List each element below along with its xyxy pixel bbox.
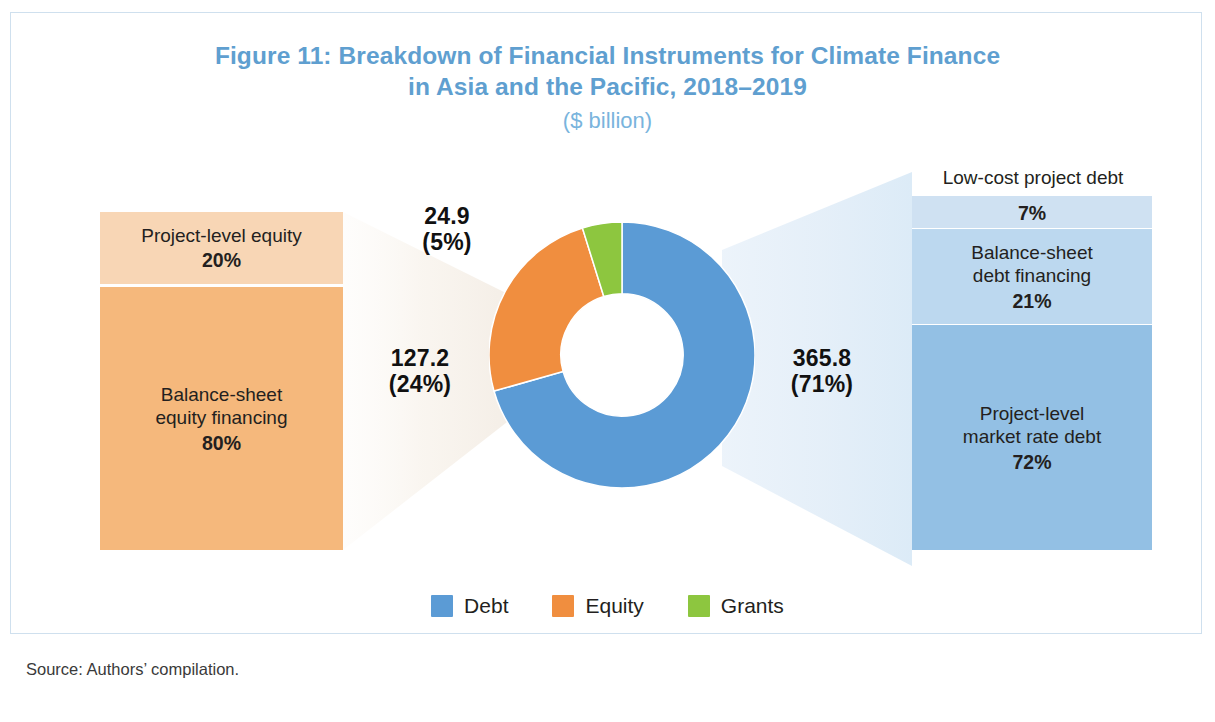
legend-swatch-debt	[431, 595, 453, 617]
donut-chart	[489, 222, 755, 488]
callout-debt-value: 365.8	[757, 345, 887, 371]
source-note: Source: Authors’ compilation.	[26, 660, 239, 679]
equity-segment-balance-sheet-value: 80%	[202, 431, 241, 455]
callout-equity-value: 127.2	[360, 345, 480, 371]
callout-equity-share: (24%)	[360, 371, 480, 397]
equity-segment-balance-sheet: Balance-sheetequity financing 80%	[100, 287, 343, 550]
equity-segment-project-level-value: 20%	[202, 248, 241, 272]
callout-debt-share: (71%)	[757, 371, 887, 397]
equity-breakdown-panel: Project-level equity 20% Balance-sheeteq…	[100, 212, 343, 550]
debt-segment-market-rate-value: 72%	[1012, 450, 1051, 474]
debt-segment-balance-sheet-label: Balance-sheetdebt financing	[971, 241, 1092, 288]
figure-container: Figure 11: Breakdown of Financial Instru…	[0, 0, 1215, 722]
legend-swatch-grants	[688, 595, 710, 617]
equity-segment-project-level-label: Project-level equity	[141, 224, 302, 248]
legend-item-debt[interactable]: Debt	[431, 594, 508, 618]
callout-grants-value: 24.9	[382, 203, 512, 229]
debt-segment-market-rate-label: Project-levelmarket rate debt	[963, 402, 1101, 449]
legend-item-equity[interactable]: Equity	[552, 594, 643, 618]
equity-segment-project-level: Project-level equity 20%	[100, 212, 343, 284]
legend-label-equity: Equity	[585, 594, 643, 618]
legend-label-grants: Grants	[721, 594, 784, 618]
callout-debt: 365.8 (71%)	[757, 345, 887, 397]
debt-breakdown-panel: 7% Balance-sheetdebt financing 21% Proje…	[912, 196, 1152, 550]
debt-segment-low-cost: 7%	[912, 196, 1152, 228]
legend-swatch-equity	[552, 595, 574, 617]
callout-grants: 24.9 (5%)	[382, 203, 512, 255]
debt-segment-market-rate: Project-levelmarket rate debt 72%	[912, 325, 1152, 550]
legend-label-debt: Debt	[464, 594, 508, 618]
equity-segment-balance-sheet-label: Balance-sheetequity financing	[155, 383, 287, 430]
debt-segment-balance-sheet: Balance-sheetdebt financing 21%	[912, 229, 1152, 324]
debt-segment-balance-sheet-value: 21%	[1012, 289, 1051, 313]
debt-segment-low-cost-value: 7%	[1018, 201, 1046, 225]
callout-grants-share: (5%)	[382, 229, 512, 255]
callout-equity: 127.2 (24%)	[360, 345, 480, 397]
donut-chart-svg	[489, 222, 755, 488]
chart-legend: DebtEquityGrants	[0, 594, 1215, 618]
debt-segment-low-cost-label: Low-cost project debt	[888, 166, 1178, 189]
legend-item-grants[interactable]: Grants	[688, 594, 784, 618]
